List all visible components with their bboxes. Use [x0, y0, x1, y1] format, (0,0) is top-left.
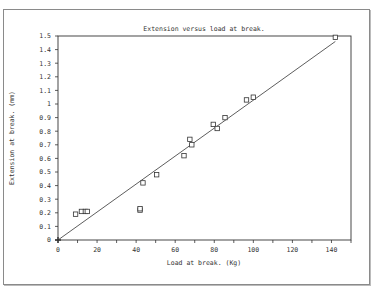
data-point	[73, 212, 77, 216]
y-tick-label: 0.1	[39, 223, 51, 231]
x-tick-label: 40	[132, 246, 140, 254]
y-tick-label: 0.9	[39, 114, 51, 122]
y-tick-label: 0	[47, 236, 51, 244]
data-point	[141, 181, 145, 185]
y-tick-label: 0.5	[39, 168, 51, 176]
data-point	[223, 115, 227, 119]
data-point	[85, 209, 89, 213]
scatter-chart: Extension versus load at break. 00.10.20…	[0, 0, 373, 290]
x-tick-label: 120	[287, 246, 299, 254]
y-tick-label: 0.8	[39, 128, 51, 136]
y-tick-label: 1.5	[39, 32, 51, 40]
y-axis-label: Extension at break. (mm)	[8, 91, 16, 185]
data-point	[244, 98, 248, 102]
x-axis-label: Load at break. (Kg)	[167, 259, 241, 267]
data-point	[154, 173, 158, 177]
y-tick-label: 0.4	[39, 182, 51, 190]
y-tick-label: 0.3	[39, 196, 51, 204]
origin-marker	[55, 237, 61, 243]
data-point	[188, 137, 192, 141]
data-point	[251, 95, 255, 99]
data-point	[215, 126, 219, 130]
y-tick-label: 1.1	[39, 87, 51, 95]
x-tick-label: 100	[247, 246, 259, 254]
y-tick-label: 0.2	[39, 209, 51, 217]
y-tick-label: 1.4	[39, 46, 51, 54]
x-tick-label: 20	[93, 246, 101, 254]
x-tick-label: 80	[210, 246, 218, 254]
data-point	[190, 143, 194, 147]
plot-border	[58, 36, 351, 240]
data-point	[333, 35, 337, 39]
x-tick-label: 140	[326, 246, 338, 254]
plot-area: 00.10.20.30.40.50.60.70.80.911.11.21.31.…	[39, 32, 351, 254]
y-tick-label: 1	[47, 100, 51, 108]
chart-title: Extension versus load at break.	[143, 25, 264, 33]
x-tick-label: 60	[171, 246, 179, 254]
y-tick-label: 1.2	[39, 73, 51, 81]
data-point	[182, 153, 186, 157]
fit-line	[58, 41, 335, 240]
x-tick-label: 0	[56, 246, 60, 254]
y-tick-label: 0.6	[39, 155, 51, 163]
y-tick-label: 0.7	[39, 141, 51, 149]
data-point	[138, 207, 142, 211]
y-tick-label: 1.3	[39, 60, 51, 68]
